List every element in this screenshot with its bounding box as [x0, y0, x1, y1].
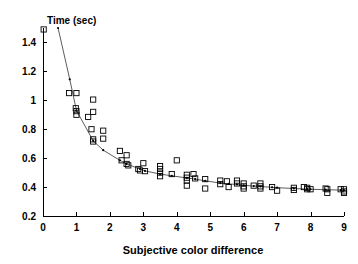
y-tick-label: 0.2	[22, 211, 36, 222]
chart-canvas: 0123456789 0.20.40.60.811.21.4 Subjectiv…	[0, 0, 358, 264]
y-tick-label: 0.8	[22, 124, 36, 135]
fit-dot	[236, 183, 238, 185]
axes	[43, 28, 344, 216]
data-marker	[226, 184, 231, 189]
x-tick-label: 0	[40, 222, 46, 233]
data-marker	[184, 183, 189, 188]
scatter-plot-figure: 0123456789 0.20.40.60.811.21.4 Subjectiv…	[0, 0, 358, 264]
y-tick-label: 0.6	[22, 153, 36, 164]
axis-spine	[43, 28, 344, 216]
fit-dot	[271, 186, 273, 188]
data-marker	[203, 186, 208, 191]
x-tick-label: 8	[308, 222, 314, 233]
y-tick-label: 0.4	[22, 182, 36, 193]
x-tick-label: 1	[74, 222, 80, 233]
fit-dot	[144, 170, 146, 172]
x-tick-label: 7	[274, 222, 280, 233]
y-tick-label: 1.2	[22, 66, 36, 77]
data-marker	[91, 109, 96, 114]
data-point-markers	[41, 27, 347, 196]
fit-dot	[102, 149, 104, 151]
data-marker	[91, 97, 96, 102]
fit-dot	[69, 78, 71, 80]
data-marker	[66, 90, 71, 95]
y-tick-label: 1.4	[22, 37, 36, 48]
data-marker	[41, 27, 46, 32]
data-marker	[124, 153, 129, 158]
x-tick-label: 2	[107, 222, 113, 233]
fitted-curve-points	[57, 27, 345, 191]
x-axis-title: Subjective color difference	[123, 244, 264, 256]
data-marker	[275, 188, 280, 193]
y-tick-labels: 0.20.40.60.811.21.4	[22, 37, 36, 222]
y-tick-label: 1	[30, 95, 36, 106]
data-marker	[101, 136, 106, 141]
x-tick-label: 6	[241, 222, 247, 233]
data-marker	[101, 128, 106, 133]
tick-marks	[43, 43, 345, 217]
fit-dot	[253, 185, 255, 187]
x-tick-labels: 0123456789	[40, 222, 347, 233]
x-tick-label: 9	[341, 222, 347, 233]
data-marker	[141, 161, 146, 166]
data-marker	[89, 127, 94, 132]
data-marker	[86, 114, 91, 119]
fit-polyline	[58, 28, 344, 190]
data-marker	[174, 158, 179, 163]
data-marker	[74, 90, 79, 95]
x-tick-label: 4	[174, 222, 180, 233]
x-tick-label: 5	[207, 222, 213, 233]
fit-dot	[194, 178, 196, 180]
x-tick-label: 3	[141, 222, 147, 233]
y-axis-title: Time (sec)	[47, 15, 96, 26]
fitted-curve-line	[58, 28, 344, 190]
fit-dot	[57, 27, 59, 29]
data-marker	[117, 148, 122, 153]
